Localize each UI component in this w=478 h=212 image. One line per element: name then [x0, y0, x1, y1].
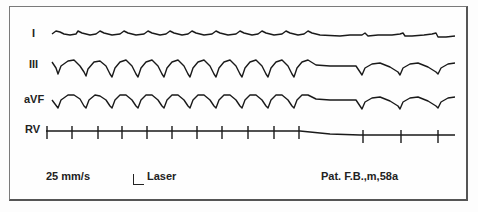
- patient-label: Pat. F.B.,m,58a: [321, 170, 398, 182]
- trace-lead-i: [52, 31, 455, 37]
- trace-lead-avf: [52, 95, 455, 109]
- trace-lead-rv: [46, 131, 455, 135]
- paper-speed-label: 25 mm/s: [46, 170, 90, 182]
- laser-label: Laser: [147, 170, 176, 182]
- laser-marker-icon: [133, 174, 144, 185]
- trace-lead-iii: [52, 60, 455, 77]
